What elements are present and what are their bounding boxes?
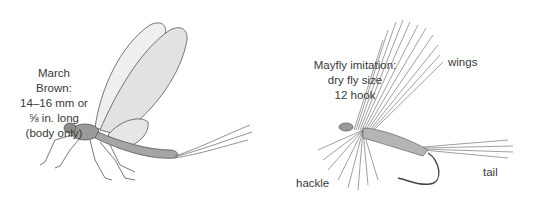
dry-fly-caption: Mayfly imitation: dry fly size 12 hook: [300, 58, 410, 103]
wings-callout: wings: [448, 55, 477, 70]
caption-line: dry fly size: [300, 73, 410, 88]
mayfly-panel: March Brown: 14–16 mm or ⅝ in. long (bod…: [0, 0, 268, 202]
hackle-callout: hackle: [296, 176, 329, 191]
dry-fly-panel: Mayfly imitation: dry fly size 12 hook w…: [268, 0, 538, 202]
caption-line: 12 hook: [300, 88, 410, 103]
tail-callout: tail: [483, 165, 498, 180]
caption-line: ⅝ in. long: [20, 111, 88, 126]
caption-line: March Brown:: [20, 66, 88, 96]
caption-line: (body only): [20, 126, 88, 141]
caption-line: 14–16 mm or: [20, 96, 88, 111]
caption-line: Mayfly imitation:: [300, 58, 410, 73]
mayfly-caption: March Brown: 14–16 mm or ⅝ in. long (bod…: [20, 66, 88, 141]
